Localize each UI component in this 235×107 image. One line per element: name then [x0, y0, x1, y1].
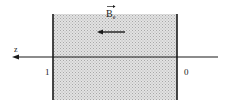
diagram-canvas: Be z 1 0 [0, 0, 235, 107]
z-axis-arrowhead-icon [12, 55, 19, 60]
vector-arrow-over-b-head-icon [113, 5, 116, 8]
left-boundary-label: 1 [45, 67, 50, 77]
z-axis-label: z [14, 45, 18, 54]
field-subscript: e [113, 14, 116, 20]
field-label: Be [106, 8, 116, 20]
right-boundary-label: 0 [184, 67, 189, 77]
